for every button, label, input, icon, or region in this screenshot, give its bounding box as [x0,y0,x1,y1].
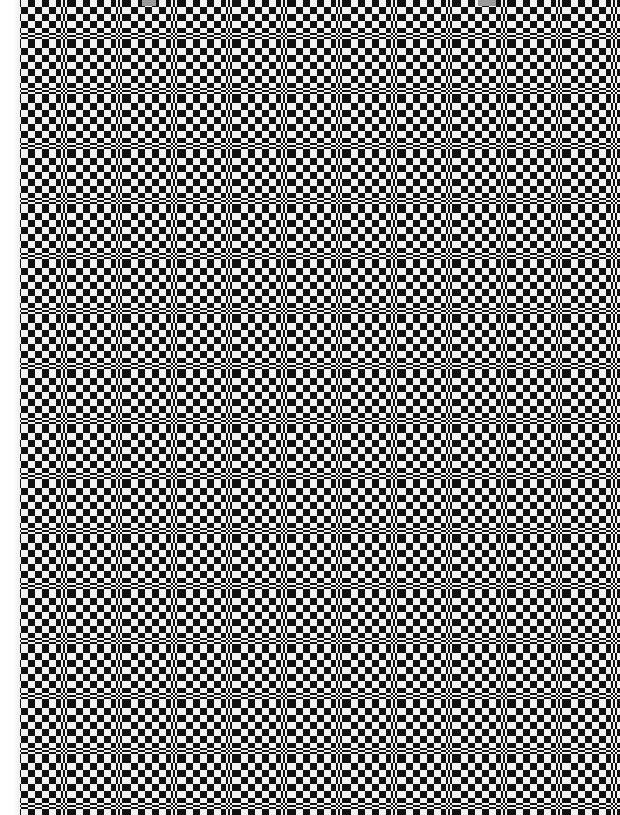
checkerboard-canvas [20,0,620,815]
gray-mark [142,0,156,6]
left-margin [0,0,20,815]
gray-mark [478,0,496,6]
checkerboard-pattern [20,0,620,815]
